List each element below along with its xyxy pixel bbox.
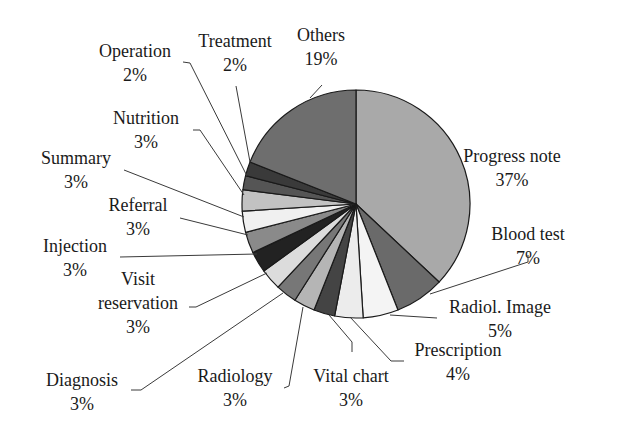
leader-line-visit-reservation — [189, 273, 267, 307]
slice-label-treatment: Treatment2% — [198, 31, 271, 75]
pie-chart-canvas: Progress note37%Blood test7%Radiol. Imag… — [0, 0, 619, 436]
slice-label-radiology: Radiology3% — [198, 366, 273, 410]
leader-line-operation — [183, 62, 247, 176]
slice-label-injection: Injection3% — [43, 236, 107, 280]
slice-label-vital-chart: Vital chart3% — [313, 366, 388, 410]
pie-chart: Progress note37%Blood test7%Radiol. Imag… — [0, 0, 619, 436]
leader-line-referral — [180, 218, 248, 235]
slice-label-summary: Summary3% — [41, 148, 111, 192]
slice-label-radiol-image: Radiol. Image5% — [449, 297, 551, 341]
slice-label-operation: Operation2% — [99, 41, 171, 85]
leader-line-injection — [120, 254, 257, 257]
slice-label-others: Others19% — [297, 25, 345, 69]
slice-label-blood-test: Blood test7% — [491, 224, 565, 268]
slice-label-diagnosis: Diagnosis3% — [46, 370, 118, 414]
slice-label-progress-note: Progress note37% — [463, 146, 561, 190]
pie-slices — [242, 90, 470, 318]
slice-label-visit-reservation: Visitreservation3% — [98, 269, 178, 337]
leader-line-prescription — [350, 317, 404, 361]
leader-line-vital-chart — [329, 315, 352, 352]
leader-line-treatment — [236, 86, 250, 162]
slice-label-referral: Referral3% — [109, 195, 168, 239]
leader-line-radiology — [284, 307, 303, 388]
leader-line-radiol-image — [390, 315, 437, 318]
slice-label-nutrition: Nutrition3% — [113, 108, 179, 152]
leader-line-nutrition — [193, 130, 244, 195]
slice-label-prescription: Prescription4% — [415, 340, 502, 384]
